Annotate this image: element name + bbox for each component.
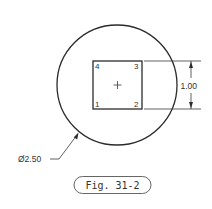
diameter-leader <box>50 133 79 160</box>
corner-label-3: 3 <box>134 62 139 71</box>
square-dimension-label: 1.00 <box>181 81 198 91</box>
arrow-down-icon <box>189 102 193 109</box>
diameter-label: Ø2.50 <box>18 154 41 164</box>
arrow-up-icon <box>189 62 193 69</box>
corner-label-1: 1 <box>95 100 100 109</box>
corner-label-4: 4 <box>95 62 100 71</box>
center-mark <box>114 81 122 89</box>
corner-label-2: 2 <box>134 100 139 109</box>
technical-drawing: 4 3 1 2 1.00 Ø2.50 Fig. 31-2 <box>0 0 212 209</box>
figure-caption: Fig. 31-2 <box>85 180 139 191</box>
